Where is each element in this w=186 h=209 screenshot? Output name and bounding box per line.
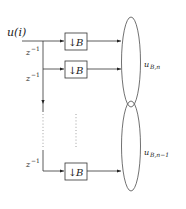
svg-text:B,n: B,n bbox=[149, 63, 160, 70]
delay-label-3: z −1 bbox=[25, 157, 40, 169]
output-group-ellipse-2 bbox=[122, 101, 141, 191]
output-label-2: u B,n−1 bbox=[144, 148, 169, 158]
svg-text:−1: −1 bbox=[31, 71, 40, 78]
downsample-block-1: ↓ B bbox=[65, 33, 87, 50]
downsample-block-3: ↓ B bbox=[65, 163, 87, 180]
svg-text:B: B bbox=[75, 37, 83, 48]
downsample-block-2: ↓ B bbox=[65, 61, 87, 78]
svg-text:−1: −1 bbox=[31, 157, 40, 164]
input-label: u(i) bbox=[7, 26, 26, 39]
delay-label-1: z −1 bbox=[25, 45, 40, 57]
svg-text:−1: −1 bbox=[31, 45, 40, 52]
output-label-1: u B,n bbox=[144, 60, 160, 70]
svg-text:B,n−1: B,n−1 bbox=[149, 151, 169, 158]
output-group-ellipse-1 bbox=[122, 17, 141, 107]
svg-text:B: B bbox=[75, 167, 83, 178]
svg-text:B: B bbox=[75, 65, 83, 76]
downsampling-block-diagram: u(i) z −1 z −1 z −1 ↓ B ↓ B ↓ B bbox=[0, 0, 186, 209]
svg-text:u: u bbox=[144, 148, 149, 157]
svg-text:u: u bbox=[144, 60, 149, 69]
delay-label-2: z −1 bbox=[25, 71, 40, 83]
